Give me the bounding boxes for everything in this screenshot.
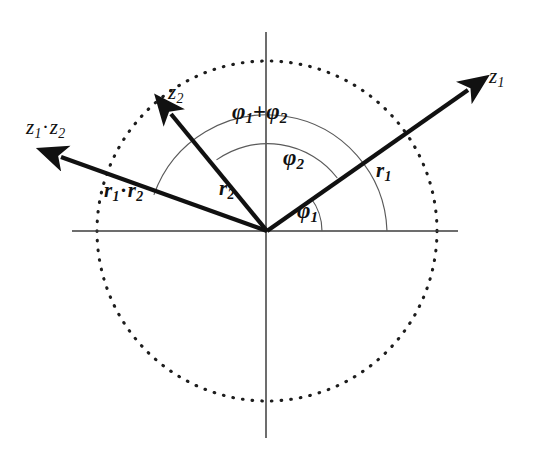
label-phi2: φ2 bbox=[283, 146, 304, 171]
label-phi1: φ1 bbox=[297, 199, 318, 224]
phi2-arc bbox=[217, 144, 338, 178]
label-r1-times-r2: r1·r2 bbox=[104, 180, 143, 204]
label-phi1-plus-phi2: φ1+φ2 bbox=[232, 100, 287, 125]
label-r1: r1 bbox=[376, 160, 391, 184]
complex-multiplication-diagram: z1 z2 z1·z2 r1 r2 r1·r2 φ1 φ2 φ1+φ2 bbox=[0, 0, 541, 452]
label-z1-times-z2: z1·z2 bbox=[26, 117, 65, 141]
diagram-canvas bbox=[0, 0, 541, 452]
label-z1: z1 bbox=[489, 66, 504, 90]
label-z2: z2 bbox=[168, 82, 183, 106]
label-r2: r2 bbox=[219, 178, 234, 202]
